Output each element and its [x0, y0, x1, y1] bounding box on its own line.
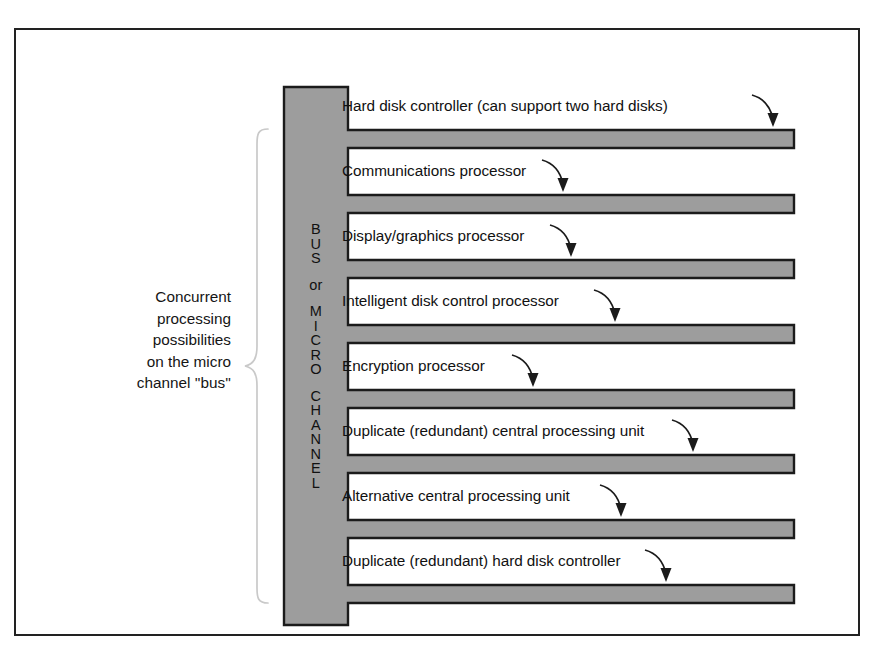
- row-label-intelligent-disk-control-processor: Intelligent disk control processor: [342, 292, 559, 310]
- caption-line: processing: [76, 308, 231, 330]
- caption-line: channel ''bus'': [76, 372, 231, 394]
- row-label-duplicate-hard-disk-controller: Duplicate (redundant) hard disk controll…: [342, 552, 621, 570]
- caption-line: on the micro: [76, 351, 231, 373]
- figure-caption: Concurrent processing possibilities on t…: [76, 286, 231, 394]
- row-label-hard-disk-controller: Hard disk controller (can support two ha…: [342, 97, 668, 115]
- curly-brace: [244, 128, 270, 604]
- row-label-alternative-central-processing-unit: Alternative central processing unit: [342, 487, 570, 505]
- row-label-communications-processor: Communications processor: [342, 162, 526, 180]
- row-label-encryption-processor: Encryption processor: [342, 357, 485, 375]
- figure-frame: B U S or M I C R O C H A N N E L Hard di…: [14, 28, 860, 636]
- caption-line: Concurrent: [76, 286, 231, 308]
- row-label-display-graphics-processor: Display/graphics processor: [342, 227, 524, 245]
- row-label-duplicate-central-processing-unit: Duplicate (redundant) central processing…: [342, 422, 644, 440]
- caption-line: possibilities: [76, 329, 231, 351]
